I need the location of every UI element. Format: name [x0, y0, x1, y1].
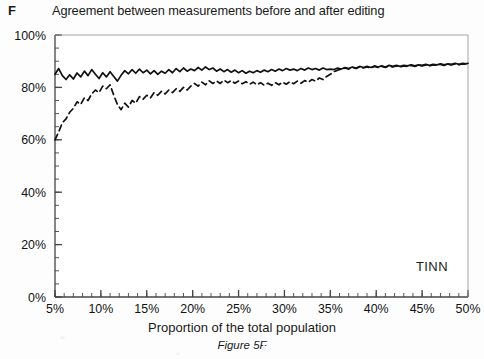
svg-text:15%: 15% [134, 302, 159, 316]
svg-text:45%: 45% [410, 302, 435, 316]
figure-caption: Figure 5F [0, 339, 484, 351]
chart-plot: 5%10%15%20%25%30%35%40%45%50%0%20%40%60%… [0, 0, 484, 359]
series-annotation-tinn: TINN [416, 259, 448, 274]
x-axis-title: Proportion of the total population [0, 320, 484, 335]
svg-text:35%: 35% [318, 302, 343, 316]
svg-text:60%: 60% [21, 133, 46, 147]
svg-text:40%: 40% [21, 186, 46, 200]
svg-text:0%: 0% [28, 291, 46, 305]
svg-text:20%: 20% [21, 238, 46, 252]
svg-text:5%: 5% [46, 302, 64, 316]
svg-text:25%: 25% [226, 302, 251, 316]
svg-text:50%: 50% [456, 302, 481, 316]
svg-text:40%: 40% [364, 302, 389, 316]
plot-background [55, 35, 468, 297]
svg-text:30%: 30% [272, 302, 297, 316]
svg-text:10%: 10% [88, 302, 113, 316]
svg-text:100%: 100% [14, 29, 46, 43]
figure-panel: F Agreement between measurements before … [0, 0, 484, 359]
svg-text:20%: 20% [180, 302, 205, 316]
svg-text:80%: 80% [21, 81, 46, 95]
